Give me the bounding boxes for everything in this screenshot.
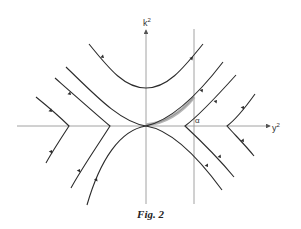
arrow-icon bbox=[205, 163, 210, 168]
figure-caption: Fig. 2 bbox=[0, 208, 301, 220]
shaded-band-edge bbox=[146, 97, 194, 125]
curve-separatrix-upper-left bbox=[66, 67, 146, 126]
x-axis-label-sup: 2 bbox=[277, 122, 280, 128]
y-axis-label-sup: 2 bbox=[148, 17, 151, 23]
curve-separatrix-lower-left bbox=[87, 126, 146, 205]
curve-right-cusp-outer bbox=[227, 94, 255, 156]
shaded-band bbox=[146, 97, 194, 125]
curve-separatrix-lower-right bbox=[146, 126, 222, 190]
curve-left-cusp-inner bbox=[55, 78, 110, 188]
arrow-icon bbox=[214, 99, 219, 104]
alpha-label: α bbox=[195, 117, 200, 125]
curve-separatrix-upper-right bbox=[146, 62, 223, 126]
x-axis-label: y2 bbox=[272, 122, 280, 133]
phase-diagram bbox=[0, 0, 301, 229]
curve-left-cusp-outer bbox=[36, 97, 69, 163]
y-axis-label: k2 bbox=[143, 17, 151, 28]
arrow-icon bbox=[241, 138, 246, 143]
